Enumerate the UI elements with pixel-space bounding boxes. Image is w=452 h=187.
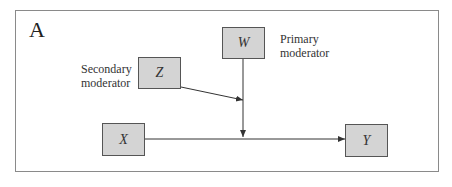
node-w-caption-line2: moderator	[280, 46, 329, 60]
node-w-label: W	[238, 35, 250, 51]
node-z-label: Z	[156, 65, 164, 81]
node-y-label: Y	[363, 133, 371, 149]
node-w-caption-line1: Primary	[280, 32, 329, 46]
node-x-box: X	[102, 123, 145, 156]
node-w-caption: Primary moderator	[280, 32, 329, 60]
node-z-caption-line2: moderator	[81, 76, 132, 90]
node-y-box: Y	[345, 124, 388, 157]
node-z-caption-line1: Secondary	[81, 62, 132, 76]
node-x-label: X	[119, 132, 128, 148]
node-w-box: W	[222, 27, 265, 59]
arrow-z-to-line	[181, 87, 243, 100]
node-z-box: Z	[138, 57, 181, 89]
node-z-caption: Secondary moderator	[81, 62, 132, 90]
